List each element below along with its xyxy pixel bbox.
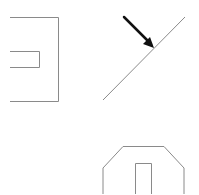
house-door (136, 164, 152, 195)
bracket-outline (10, 18, 59, 102)
bracket-shape (10, 18, 59, 102)
diagram-canvas (0, 0, 199, 194)
house-shape (103, 147, 184, 195)
bracket-slot (10, 52, 40, 68)
diagonal-line (103, 17, 185, 100)
arrow-shaft (124, 17, 150, 43)
diagonal-with-arrow (103, 17, 185, 100)
house-outline (103, 147, 184, 195)
